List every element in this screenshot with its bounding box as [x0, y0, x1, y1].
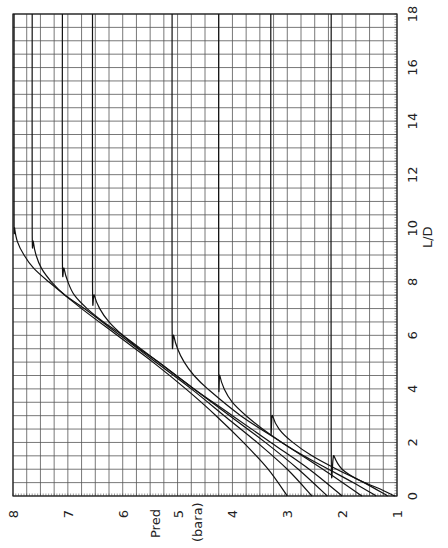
ld-tick-label: 16	[405, 59, 420, 76]
chart: 12345678024681012141618 Pred (bara) L/D	[0, 0, 448, 548]
pred-tick-label: 2	[335, 510, 350, 518]
ld-tick-label: 2	[405, 438, 420, 446]
pred-tick-label: 3	[280, 510, 295, 518]
ld-tick-label: 10	[405, 220, 420, 237]
ld-tick-label: 6	[405, 331, 420, 339]
ld-axis-title: L/D	[420, 226, 435, 248]
ld-tick-label: 4	[405, 385, 420, 393]
pred-tick-label: 5	[171, 510, 186, 518]
pred-tick-label: 6	[116, 510, 131, 518]
pred-tick-label: 1	[390, 510, 405, 518]
pred-tick-label: 7	[61, 510, 76, 518]
ld-tick-label: 8	[405, 278, 420, 286]
ld-tick-label: 18	[405, 6, 420, 23]
ld-tick-label: 0	[405, 492, 420, 500]
pred-tick-label: 8	[6, 510, 21, 518]
grid	[13, 14, 397, 496]
pred-axis-unit: (bara)	[190, 502, 205, 542]
pred-axis-title: Pred	[148, 509, 163, 538]
ld-tick-label: 12	[405, 166, 420, 183]
pred-tick-label: 4	[225, 510, 240, 518]
ld-tick-label: 14	[405, 113, 420, 130]
